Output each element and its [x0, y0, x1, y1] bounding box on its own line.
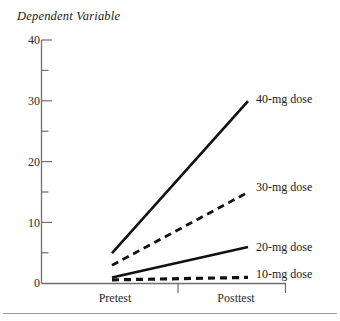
plot-area	[0, 0, 340, 321]
chart-figure: Dependent Variable 40 30 20 10 0 Pretest…	[0, 0, 340, 321]
series-line-20mg	[112, 247, 248, 278]
bottom-divider	[3, 313, 337, 314]
series-line-10mg	[112, 277, 248, 280]
